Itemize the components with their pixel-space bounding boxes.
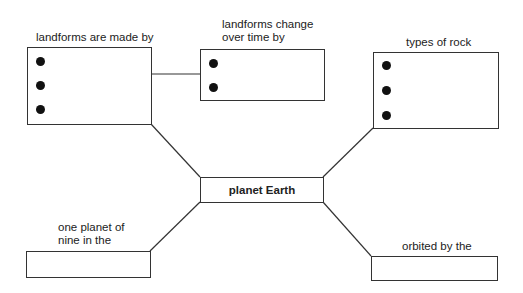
change-by-box[interactable] [200,49,325,101]
connector-madeby-center [151,124,200,177]
one-planet-label-line1: one planet of [58,221,125,234]
bullet-icon [209,83,218,92]
connector-center-oneplanet [150,202,200,251]
made-by-box[interactable] [27,47,152,125]
orbited-by-box[interactable] [371,256,498,281]
one-planet-label-line2: nine in the [58,234,111,247]
change-by-label-line2: over time by [222,31,285,44]
bullet-icon [382,86,391,95]
orbited-by-label: orbited by the [402,240,472,253]
one-planet-box[interactable] [26,251,151,278]
connector-center-orbitedby [323,202,371,256]
bullet-icon [36,105,45,114]
connector-rocktypes-center [323,128,373,177]
bullet-icon [382,61,391,70]
bullet-icon [209,59,218,68]
rock-types-box[interactable] [373,52,499,129]
made-by-label: landforms are made by [36,31,154,44]
change-by-label-line1: landforms change [222,18,313,31]
concept-map-canvas: landforms are made by landforms change o… [0,0,523,293]
bullet-icon [36,57,45,66]
center-box[interactable]: planet Earth [200,177,324,203]
rock-types-label: types of rock [406,36,471,49]
bullet-icon [382,111,391,120]
center-label: planet Earth [201,178,323,202]
bullet-icon [36,81,45,90]
